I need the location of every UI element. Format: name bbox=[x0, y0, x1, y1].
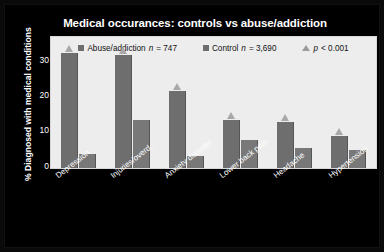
bar-abuse-addiction bbox=[61, 53, 78, 168]
significance-triangle-icon bbox=[227, 112, 235, 119]
y-tick-10: 10 bbox=[27, 125, 49, 135]
significance-triangle-icon bbox=[119, 47, 127, 54]
bar-group bbox=[61, 53, 96, 168]
bar-abuse-addiction bbox=[115, 55, 132, 168]
chart-title: Medical occurances: controls vs abuse/ad… bbox=[25, 14, 365, 32]
chart-screenshot: Medical occurances: controls vs abuse/ad… bbox=[0, 0, 384, 252]
x-axis-labels: DepressionInjuries/overd...Anxiety disor… bbox=[50, 173, 377, 252]
significance-triangle-icon bbox=[335, 128, 343, 135]
plot-area: Abuse/addiction n = 747 Control n = 3,69… bbox=[50, 36, 377, 169]
chart-frame: Medical occurances: controls vs abuse/ad… bbox=[4, 4, 380, 248]
significance-triangle-icon bbox=[281, 114, 289, 121]
y-tick-0: 0 bbox=[27, 161, 49, 171]
y-axis-ticks: 0 10 20 30 bbox=[23, 5, 49, 252]
y-tick-20: 20 bbox=[27, 90, 49, 100]
significance-triangle-icon bbox=[173, 83, 181, 90]
significance-triangle-icon bbox=[65, 45, 73, 52]
y-tick-30: 30 bbox=[27, 55, 49, 65]
bar-groups bbox=[51, 35, 376, 168]
